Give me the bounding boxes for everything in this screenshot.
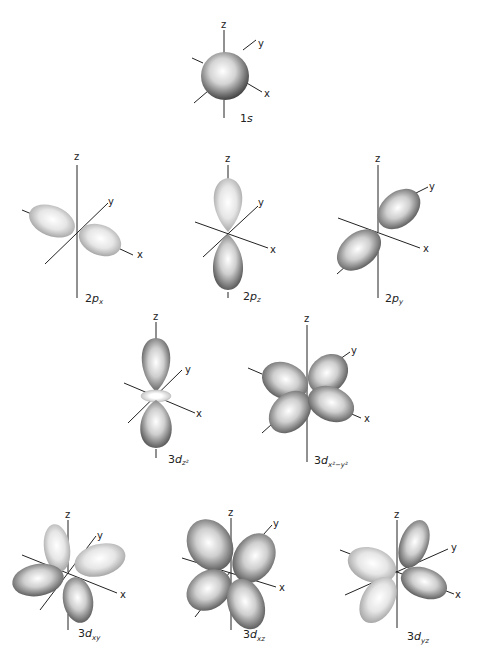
axis-label-y: y [429,181,435,192]
axis-label-z: z [221,19,226,30]
axis-label-y: y [185,364,191,375]
axis-label-z: z [153,311,158,322]
axis-label-x: x [279,582,285,593]
orbital-label-3dyz: 3dyz [407,630,429,645]
orbital-label-1s: 1s [240,112,253,125]
axis-label-z: z [394,509,399,520]
s-orbital-sphere [201,52,249,100]
axis-label-z: z [225,153,230,164]
orbital-2pz: z y x 2pz [195,153,276,304]
axis-label-z: z [74,151,79,162]
axis-label-z: z [304,313,309,324]
orbital-3dyz: z y x 3dyz [340,509,461,645]
orbital-label-3dx2-y2: 3dx²−y² [314,454,348,469]
orbital-label-2pz: 2pz [243,290,261,304]
axis-label-x: x [120,589,126,600]
axis-label-x: x [455,589,461,600]
orbital-label-3dxy: 3dxy [78,627,101,642]
axis-label-z: z [375,153,380,164]
orbital-label-2py: 2py [385,292,404,306]
orbital-3dxy: z y x 3dxy [10,509,130,642]
axis-label-y: y [258,38,264,49]
orbital-2py: z y x 2py [329,153,435,306]
orbital-label-2px: 2px [85,292,104,306]
axis-label-y: y [273,518,279,529]
orbital-label-3dz2: 3dz² [168,453,189,467]
axis-label-z: z [65,509,70,520]
axis-label-x: x [196,408,202,419]
orbital-3dz2: z y x 3dz² [124,311,202,467]
axis-label-x: x [264,88,270,99]
axis-label-y: y [351,345,357,356]
axis-label-z: z [228,507,233,518]
axis-label-y: y [108,196,114,207]
axis-label-x: x [270,244,276,255]
orbital-3dx2-y2: z y x 3dx²−y² [248,313,370,469]
orbital-label-3dxz: 3dxz [243,628,265,643]
axis-label-y: y [97,530,103,541]
axis-label-x: x [137,249,143,260]
axis-label-y: y [258,197,264,208]
orbital-3dxz: z y x 3dxz [177,507,285,643]
axis-label-y: y [451,542,457,553]
axis-label-x: x [364,413,370,424]
orbital-1s: z y x 1s [192,19,270,125]
orbital-diagram: z y x 1s z y x 2px z y x 2pz [0,0,481,656]
axis-label-x: x [423,243,429,254]
orbital-2px: z y x 2px [22,151,143,306]
